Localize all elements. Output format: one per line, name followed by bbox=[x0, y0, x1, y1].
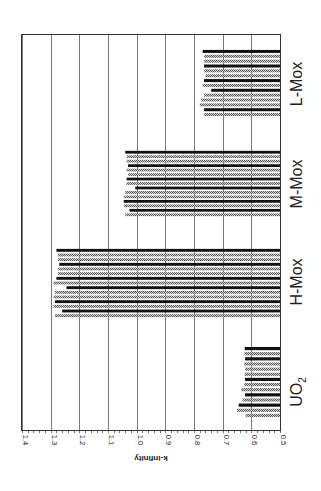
bar bbox=[211, 89, 280, 92]
bar bbox=[204, 64, 280, 67]
bar bbox=[58, 254, 280, 257]
bar bbox=[245, 373, 280, 376]
bar bbox=[203, 50, 280, 53]
bar bbox=[245, 357, 280, 360]
bar bbox=[58, 268, 280, 271]
bar bbox=[135, 187, 280, 190]
tick-label: 0.6 bbox=[250, 435, 259, 445]
bar bbox=[54, 296, 280, 299]
bar bbox=[56, 277, 280, 280]
category-label: M-Mox bbox=[288, 160, 305, 209]
bar bbox=[241, 388, 280, 391]
category-label: H-Mox bbox=[288, 258, 305, 305]
bar bbox=[201, 98, 280, 101]
y-axis-label: k-infinity bbox=[134, 454, 168, 463]
bar bbox=[245, 393, 280, 396]
bar bbox=[127, 182, 280, 185]
bar bbox=[203, 84, 280, 87]
tick-label: 1.4 bbox=[21, 435, 30, 445]
bar bbox=[204, 94, 280, 97]
bar bbox=[243, 398, 280, 401]
bar bbox=[127, 169, 280, 172]
bar bbox=[205, 74, 280, 77]
k-infinity-bar-chart: 0.50.60.70.80.91.01.11.21.31.4 k-infinit… bbox=[0, 0, 321, 491]
bar bbox=[245, 347, 280, 350]
bar bbox=[204, 79, 280, 82]
bar-group-uo2 bbox=[237, 347, 280, 417]
bar bbox=[54, 305, 280, 308]
tick-label: 0.8 bbox=[193, 435, 202, 445]
tick-label: 1.1 bbox=[107, 435, 116, 445]
bar bbox=[125, 191, 280, 194]
bar bbox=[204, 60, 280, 63]
bar bbox=[58, 272, 280, 275]
bar bbox=[244, 362, 280, 365]
axis-tick-labels: 0.50.60.70.80.91.01.11.21.31.4 bbox=[21, 435, 288, 445]
tick-label: 0.9 bbox=[164, 435, 173, 445]
bar bbox=[56, 249, 280, 252]
category-label: UO2 bbox=[288, 377, 308, 407]
bar bbox=[244, 383, 280, 386]
tick-label: 1.3 bbox=[50, 435, 59, 445]
bar bbox=[128, 164, 280, 167]
bar bbox=[66, 286, 280, 289]
bar bbox=[127, 155, 280, 158]
bar bbox=[245, 368, 280, 371]
bar bbox=[55, 300, 280, 303]
bar bbox=[128, 173, 280, 176]
bar bbox=[245, 378, 280, 381]
bar bbox=[59, 263, 280, 266]
bar bbox=[124, 200, 280, 203]
tick-label: 0.7 bbox=[222, 435, 231, 445]
bar bbox=[200, 103, 280, 106]
bar bbox=[244, 352, 280, 355]
tick-label: 0.5 bbox=[279, 435, 288, 445]
tick-label: 1.2 bbox=[78, 435, 87, 445]
category-labels: UO2H-MoxM-MoxL-Mox bbox=[288, 62, 308, 407]
bar bbox=[127, 160, 280, 163]
bar bbox=[55, 291, 280, 294]
bar-group-l-mox bbox=[200, 50, 280, 116]
bar-groups bbox=[54, 50, 280, 417]
bar bbox=[54, 282, 280, 285]
bar bbox=[204, 69, 280, 72]
axis-ticks bbox=[23, 431, 281, 433]
category-label: L-Mox bbox=[288, 62, 305, 106]
bar bbox=[127, 178, 280, 181]
bar bbox=[246, 414, 280, 417]
bar bbox=[130, 209, 281, 212]
bar bbox=[239, 404, 280, 407]
bar bbox=[58, 258, 280, 261]
bar-group-h-mox bbox=[54, 249, 280, 317]
tick-label: 1.0 bbox=[136, 435, 145, 445]
bar bbox=[204, 108, 280, 111]
bar bbox=[55, 314, 280, 317]
bar bbox=[204, 55, 280, 58]
bar bbox=[204, 113, 280, 116]
bar bbox=[125, 151, 280, 154]
gridlines bbox=[23, 34, 281, 431]
bar bbox=[124, 196, 280, 199]
bar-group-m-mox bbox=[124, 151, 280, 216]
bar bbox=[62, 310, 280, 313]
bar bbox=[125, 213, 280, 216]
bar bbox=[124, 204, 280, 207]
bar bbox=[237, 409, 280, 412]
